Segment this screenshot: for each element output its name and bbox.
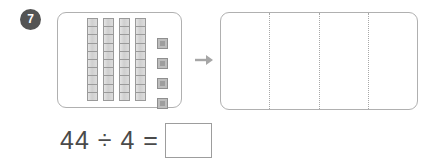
rod-cell [120,52,129,60]
unit-cube [157,78,168,89]
rod-cell [88,52,97,60]
equation-row: 44 ÷ 4 = [60,120,212,160]
rod-cell [88,27,97,35]
rod-cell [104,60,113,68]
rod-cell [104,44,113,52]
ten-rod [119,18,130,101]
rod-cell [104,52,113,60]
rod-cell [104,35,113,43]
answer-input-box[interactable] [165,123,212,158]
rod-cell [88,35,97,43]
rod-cell [120,68,129,76]
rod-cell [120,85,129,93]
unit-cube [157,38,168,49]
rod-cell [136,85,145,93]
rod-cell [136,76,145,84]
unit-cube-inner [160,101,165,106]
unit-cube-inner [160,61,165,66]
equal-group-box-1[interactable] [221,13,269,109]
rod-cell [136,27,145,35]
rod-cell [88,44,97,52]
unit-cube [157,98,168,109]
rod-cell [120,60,129,68]
ten-rod [87,18,98,101]
rod-cell [120,93,129,100]
rod-cell [104,85,113,93]
tens-rods-group [87,18,146,101]
unit-cube-inner [160,81,165,86]
rod-cell [104,76,113,84]
rod-cell [120,19,129,27]
equal-group-box-4[interactable] [368,13,417,109]
question-number-badge: 7 [20,9,41,30]
unit-cube-inner [160,41,165,46]
ten-rod [103,18,114,101]
unit-cube [157,58,168,69]
rod-cell [120,35,129,43]
rod-cell [136,52,145,60]
rod-cell [120,27,129,35]
rod-cell [104,93,113,100]
rod-cell [104,19,113,27]
equal-groups-container [220,12,418,110]
blocks-area [87,17,179,105]
ten-rod [135,18,146,101]
rod-cell [136,68,145,76]
rod-cell [88,85,97,93]
rod-cell [88,93,97,100]
rod-cell [136,60,145,68]
source-blocks-panel [57,12,182,108]
rod-cell [104,27,113,35]
rod-cell [136,19,145,27]
arrow-right-icon [193,50,215,70]
rod-cell [88,60,97,68]
equal-group-box-3[interactable] [319,13,368,109]
equal-group-box-2[interactable] [269,13,318,109]
rod-cell [120,76,129,84]
rod-cell [88,68,97,76]
rod-cell [88,76,97,84]
rod-cell [88,19,97,27]
rod-cell [104,68,113,76]
unit-cubes-group [157,38,168,109]
rod-cell [136,93,145,100]
rod-cell [120,44,129,52]
rod-cell [136,44,145,52]
equation-expression: 44 ÷ 4 = [60,126,159,155]
rod-cell [136,35,145,43]
